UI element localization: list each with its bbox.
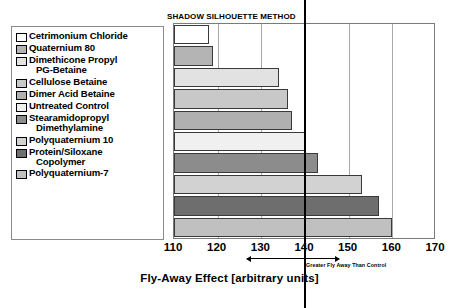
- bar: [174, 218, 392, 237]
- axis-annotation-label: Greater Fly Away Than Control: [306, 262, 386, 268]
- legend-item-label: Quaternium 80: [29, 43, 95, 53]
- legend-item-label-line2: Copolymer: [29, 157, 103, 167]
- legend-item-label: Protein/SiloxaneCopolymer: [29, 147, 103, 168]
- bar: [174, 89, 288, 108]
- x-tick-label: 130: [251, 241, 270, 253]
- legend-swatch-icon: [16, 149, 27, 158]
- chart-legend: Cetrimonium ChlorideQuaternium 80Dimethi…: [11, 26, 164, 240]
- legend-item: Cetrimonium Chloride: [16, 31, 160, 42]
- legend-swatch-icon: [16, 103, 27, 112]
- legend-item: Untreated Control: [16, 101, 160, 112]
- legend-swatch-icon: [16, 115, 27, 124]
- legend-swatch-icon: [16, 79, 27, 88]
- legend-item-label: Polyquaternium-7: [29, 168, 108, 178]
- legend-item-label: StearamidopropylDimethylamine: [29, 113, 109, 134]
- bar: [174, 111, 292, 130]
- legend-swatch-icon: [16, 57, 27, 66]
- legend-item-label: Polyquaternium 10: [29, 135, 113, 145]
- legend-swatch-icon: [16, 45, 27, 54]
- x-tick-label: 110: [164, 241, 183, 253]
- legend-swatch-icon: [16, 91, 27, 100]
- x-tick-label: 120: [207, 241, 226, 253]
- legend-item: StearamidopropylDimethylamine: [16, 113, 160, 134]
- legend-item-label: Cellulose Betaine: [29, 77, 107, 87]
- legend-item: Quaternium 80: [16, 43, 160, 54]
- x-tick-label: 170: [425, 241, 444, 253]
- legend-item-label: Dimethicone PropylPG-Betaine: [29, 55, 117, 76]
- legend-item-label: Cetrimonium Chloride: [29, 31, 128, 41]
- bar: [174, 175, 362, 194]
- bar: [174, 46, 213, 65]
- legend-swatch-icon: [16, 170, 27, 179]
- legend-item-label: Untreated Control: [29, 101, 109, 111]
- legend-item: Cellulose Betaine: [16, 77, 160, 88]
- bar: [174, 132, 305, 151]
- left-arrow-icon: [247, 258, 304, 259]
- legend-item: Dimer Acid Betaine: [16, 89, 160, 100]
- bar: [174, 196, 379, 215]
- bar: [174, 25, 209, 44]
- bar: [174, 153, 318, 172]
- legend-item-label-line2: PG-Betaine: [29, 65, 117, 75]
- legend-item: Dimethicone PropylPG-Betaine: [16, 55, 160, 76]
- legend-item: Polyquaternium 10: [16, 135, 160, 146]
- legend-swatch-icon: [16, 137, 27, 146]
- legend-swatch-icon: [16, 33, 27, 42]
- x-tick-label: 160: [382, 241, 401, 253]
- bar: [174, 68, 279, 87]
- control-reference-line: [304, 0, 306, 308]
- legend-item-label-line2: Dimethylamine: [29, 123, 109, 133]
- right-arrow-icon: [304, 258, 339, 259]
- legend-item-label: Dimer Acid Betaine: [29, 89, 115, 99]
- x-tick-label: 150: [338, 241, 357, 253]
- x-axis-label: Fly-Away Effect [arbitrary units]: [0, 272, 459, 284]
- chart-title: SHADOW SILHOUETTE METHOD: [167, 12, 296, 21]
- legend-item: Protein/SiloxaneCopolymer: [16, 147, 160, 168]
- legend-item: Polyquaternium-7: [16, 168, 160, 179]
